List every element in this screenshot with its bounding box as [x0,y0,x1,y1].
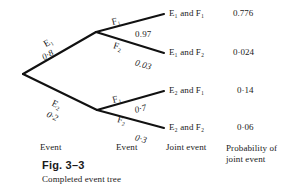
joint-probability-2: 0·024 [233,48,254,57]
figure-caption: Completed event tree [42,174,121,184]
column-header-event-1: Event [40,143,62,152]
branch-line-E2-F1 [97,91,164,110]
column-header-probability: Probability of joint event [226,143,292,166]
figure-number: Fig. 3–3 [42,159,85,171]
joint-event-3: E₂ and F₁ [169,86,204,95]
column-header-event-2: Event [116,143,138,152]
joint-probability-4: 0·06 [237,123,254,132]
branch-line-E1-F1 [96,14,164,32]
joint-event-2: E₁ and F₂ [169,48,204,57]
joint-event-1: E₁ and F₁ [169,9,204,18]
event-tree-figure: E₁ 0·8 E₂ 0·2 F₁ 0.97 F₂ 0.03 F₁ 0·7 F₂ … [0,0,297,189]
column-header-joint-event: Joint event [166,143,206,152]
branch-label-E1F1-probability: 0.97 [135,30,152,39]
branch-line-E2-F2 [97,110,164,128]
branch-line-E1 [23,32,96,74]
joint-probability-1: 0.776 [233,9,253,18]
joint-probability-3: 0·14 [237,86,254,95]
joint-event-4: E₂ and F₂ [169,123,204,132]
branch-line-E1-F2 [96,32,164,53]
